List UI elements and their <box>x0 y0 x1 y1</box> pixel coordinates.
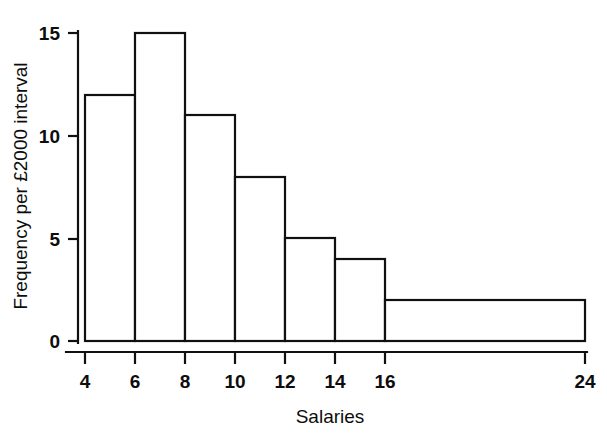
x-axis-title: Salaries <box>296 406 365 427</box>
histogram-bar <box>335 259 385 341</box>
x-tick-label: 10 <box>224 371 245 392</box>
histogram-chart: 15 10 5 0 4 6 8 10 12 14 16 24 Salaries … <box>0 0 607 440</box>
histogram-bar <box>285 238 335 341</box>
x-tick-label: 4 <box>80 371 91 392</box>
x-tick-label: 8 <box>180 371 191 392</box>
y-axis-ticks <box>68 33 78 341</box>
x-axis-ticks <box>85 352 585 364</box>
y-tick-label: 5 <box>49 229 60 250</box>
histogram-bar <box>235 177 285 341</box>
histogram-bar <box>385 300 585 341</box>
histogram-bar <box>85 95 135 341</box>
histogram-bar <box>185 115 235 341</box>
histogram-figure: 15 10 5 0 4 6 8 10 12 14 16 24 Salaries … <box>0 0 607 440</box>
x-tick-label: 12 <box>274 371 295 392</box>
x-tick-label: 14 <box>324 371 346 392</box>
x-tick-label: 24 <box>574 371 596 392</box>
x-tick-label: 16 <box>374 371 395 392</box>
bar-series <box>85 33 585 341</box>
histogram-bar <box>135 33 185 341</box>
y-tick-label: 0 <box>49 331 60 352</box>
y-axis-title: Frequency per £2000 interval <box>10 62 31 309</box>
y-tick-label: 10 <box>39 126 60 147</box>
x-tick-label: 6 <box>130 371 141 392</box>
y-tick-label: 15 <box>39 23 61 44</box>
